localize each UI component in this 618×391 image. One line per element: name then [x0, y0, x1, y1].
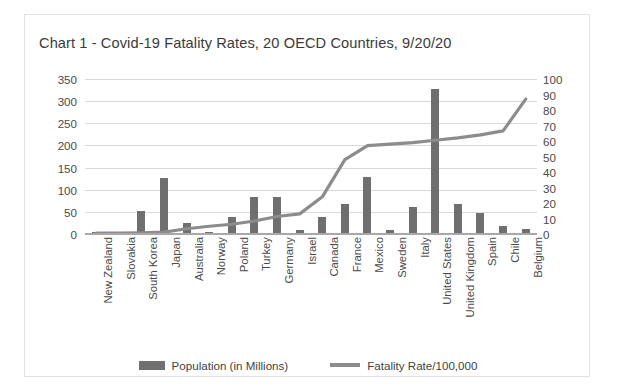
x-label-slot: Sweden: [379, 237, 402, 349]
legend-label-population: Population (in Millions): [172, 359, 289, 372]
x-axis-line: [85, 233, 537, 235]
chart-legend: Population (in Millions) Fatality Rate/1…: [25, 355, 591, 375]
y-axis-right-tick-label: 40: [543, 166, 556, 179]
x-label-slot: Israel: [288, 237, 311, 349]
x-label-slot: Turkey: [243, 237, 266, 349]
x-label-slot: Australia: [175, 237, 198, 349]
chart-container: Chart 1 - Covid-19 Fatality Rates, 20 OE…: [24, 14, 590, 377]
fatality-rate-line: [96, 99, 525, 233]
y-axis-left-tick-label: 0: [71, 228, 77, 241]
x-label-slot: New Zealand: [85, 237, 108, 349]
legend-item-fatality-rate: Fatality Rate/100,000: [330, 359, 477, 372]
plot-area: [85, 79, 537, 234]
y-axis-left-tick-label: 150: [58, 161, 77, 174]
x-label-slot: Poland: [221, 237, 244, 349]
x-label-slot: Canada: [311, 237, 334, 349]
chart-title: Chart 1 - Covid-19 Fatality Rates, 20 OE…: [39, 35, 579, 51]
legend-item-population: Population (in Millions): [139, 359, 289, 372]
y-axis-left-tick-label: 300: [58, 95, 77, 108]
legend-bar-swatch-icon: [139, 361, 165, 370]
x-axis-category-labels: New ZealandSlovakiaSouth KoreaJapanAustr…: [85, 237, 537, 349]
x-label-slot: Italy: [401, 237, 424, 349]
y-axis-right-tick-label: 20: [543, 197, 556, 210]
y-axis-right-tick-label: 90: [543, 88, 556, 101]
y-axis-right-tick-label: 70: [543, 119, 556, 132]
y-axis-left-tick-label: 250: [58, 117, 77, 130]
x-label-slot: Belgium: [514, 237, 537, 349]
y-axis-left-tick-label: 350: [58, 73, 77, 86]
legend-line-swatch-icon: [330, 363, 360, 366]
y-axis-right-tick-label: 80: [543, 104, 556, 117]
y-axis-right-tick-label: 100: [543, 73, 562, 86]
x-label-slot: France: [334, 237, 357, 349]
y-axis-right-tick-label: 60: [543, 135, 556, 148]
x-label-slot: Norway: [198, 237, 221, 349]
x-label-slot: Spain: [469, 237, 492, 349]
x-label-slot: Chile: [492, 237, 515, 349]
x-label-slot: Germany: [266, 237, 289, 349]
y-axis-left-tick-label: 50: [64, 205, 77, 218]
x-label-slot: Mexico: [356, 237, 379, 349]
y-axis-left-tick-label: 100: [58, 183, 77, 196]
x-label-slot: South Korea: [130, 237, 153, 349]
x-label-slot: Slovakia: [108, 237, 131, 349]
y-axis-left-tick-label: 200: [58, 139, 77, 152]
x-label-slot: United States: [424, 237, 447, 349]
legend-label-fatality-rate: Fatality Rate/100,000: [367, 359, 477, 372]
y-axis-right: 0102030405060708090100: [543, 79, 589, 234]
x-label-slot: Japan: [153, 237, 176, 349]
y-axis-right-tick-label: 50: [543, 150, 556, 163]
x-label-slot: United Kingdom: [447, 237, 470, 349]
line-series-fatality-rate: [85, 79, 537, 234]
y-axis-right-tick-label: 10: [543, 212, 556, 225]
x-axis-category-label: Belgium: [532, 237, 544, 278]
y-axis-right-tick-label: 30: [543, 181, 556, 194]
y-axis-left: 050100150200250300350: [25, 79, 77, 234]
